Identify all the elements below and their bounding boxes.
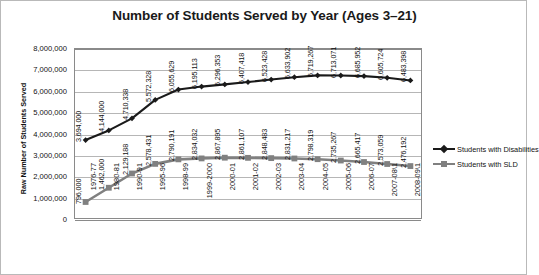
data-point-label: 2,790,191 (167, 130, 176, 161)
data-point (176, 156, 182, 162)
x-axis-tick-label: 2007-08\1 (390, 163, 399, 223)
x-axis-tick-label: 2000-01 (228, 163, 237, 223)
y-axis-tick-label: 6,000,000 (3, 86, 67, 95)
x-axis-tick-label: 2006-07 (367, 163, 376, 223)
data-point-label: 4,144,000 (97, 101, 106, 132)
data-point (315, 156, 321, 162)
data-point (384, 75, 390, 81)
y-axis-tick-label: 3,000,000 (3, 150, 67, 159)
y-axis-tick-label: 2,000,000 (3, 172, 67, 181)
x-axis-tick-label: 1990-91 (135, 163, 144, 223)
legend-square-icon (433, 160, 455, 168)
data-point (83, 199, 89, 205)
y-axis-tick-label: 4,000,000 (3, 129, 67, 138)
data-point-label: 6,605,724 (376, 49, 385, 80)
data-point (83, 137, 89, 143)
chart-legend: Students with DisabilitiesStudents with … (433, 144, 528, 174)
data-point-label: 6,633,902 (283, 48, 292, 79)
data-point (315, 72, 321, 78)
data-point (199, 156, 205, 162)
data-point-label: 796,000 (74, 179, 83, 204)
data-point-label: 6,483,398 (399, 51, 408, 82)
data-point (106, 185, 112, 191)
data-point (408, 78, 414, 84)
data-point (268, 77, 274, 83)
data-point-label: 2,476,192 (399, 137, 408, 168)
y-axis-tick-label: 5,000,000 (3, 108, 67, 117)
data-point-label: 2,735,267 (329, 131, 338, 162)
legend-item[interactable]: Students with SLD (433, 159, 528, 169)
y-axis-tick-label: 0 (3, 215, 67, 224)
data-point-label: 3,694,000 (74, 111, 83, 142)
data-point-label: 6,195,113 (190, 58, 199, 89)
data-point-label: 4,710,338 (121, 89, 130, 120)
y-axis-tick-label: 1,000,000 (3, 193, 67, 202)
data-point (338, 73, 344, 79)
data-point-label: 6,685,952 (353, 47, 362, 78)
x-axis-tick-label: 2008-09\1 (413, 163, 422, 223)
data-point (292, 74, 298, 80)
legend-label: Students with Disabilities (457, 145, 539, 154)
series-line (86, 75, 411, 140)
data-point-label: 2,798,319 (306, 130, 315, 161)
data-point-label: 1,462,000 (97, 159, 106, 190)
data-point-label: 2,867,895 (213, 129, 222, 160)
data-point-label: 6,523,428 (260, 50, 269, 81)
data-point-label: 2,578,431 (144, 135, 153, 166)
data-point (222, 155, 228, 161)
legend-diamond-icon (433, 145, 455, 153)
data-point-label: 2,573,059 (376, 135, 385, 166)
chart-title: Number of Students Served by Year (Ages … (1, 8, 528, 23)
y-axis-tick-label: 8,000,000 (3, 44, 67, 53)
x-axis-tick-label: 2005-06 (344, 163, 353, 223)
data-point-label: 5,572,328 (144, 71, 153, 102)
x-axis-tick-label: 1980-81 (112, 163, 121, 223)
x-axis-tick-label: 1995-96 (158, 163, 167, 223)
data-point-label: 2,831,217 (283, 129, 292, 160)
data-point (292, 156, 298, 162)
data-point-label: 2,834,032 (190, 129, 199, 160)
x-axis-tick-label: 2004-05 (321, 163, 330, 223)
data-point-label: 2,129,188 (121, 144, 130, 175)
data-point-label: 2,861,107 (237, 129, 246, 160)
data-point-label: 6,296,353 (213, 55, 222, 86)
data-point (338, 158, 344, 164)
x-axis-tick-label: 1976-77 (89, 163, 98, 223)
data-point-label: 6,713,071 (329, 46, 338, 77)
series-sld (83, 155, 414, 205)
legend-label: Students with SLD (457, 160, 518, 169)
x-axis-tick-label: 1999-2000 (205, 163, 214, 223)
x-axis-tick-label: 2003-04 (297, 163, 306, 223)
y-axis-tick-label: 7,000,000 (3, 65, 67, 74)
x-axis-tick-label: 1998-99 (181, 163, 190, 223)
legend-item[interactable]: Students with Disabilities (433, 144, 528, 154)
x-axis-tick-label: 2001-02 (251, 163, 260, 223)
data-point-label: 6,719,267 (306, 46, 315, 77)
x-axis-tick-label: 2002-03 (274, 163, 283, 223)
data-point-label: 2,848,483 (260, 129, 269, 160)
data-point (199, 84, 205, 90)
data-point-label: 6,407,418 (237, 53, 246, 84)
data-point-label: 2,665,417 (353, 133, 362, 164)
data-point-label: 6,055,629 (167, 60, 176, 91)
data-point (268, 155, 274, 161)
series-disabilities (83, 72, 414, 142)
data-point (222, 82, 228, 88)
